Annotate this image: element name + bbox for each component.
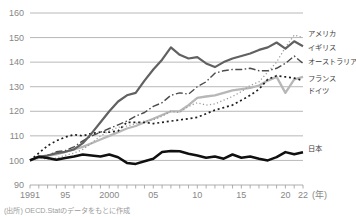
series-label-germany: ドイツ <box>308 86 329 95</box>
x-axis-label-95: 95 <box>60 190 70 200</box>
series-label-uk: イギリス <box>308 43 336 52</box>
series-label-australia: オーストラリア <box>308 57 356 66</box>
y-axis-label-120: 120 <box>9 106 24 116</box>
series-line-japan <box>30 151 303 164</box>
series-label-france: フランス <box>308 74 336 83</box>
x-axis-label-05: 05 <box>148 190 158 200</box>
chart-figure: 9010011012013014015016019919520000510152… <box>0 0 356 217</box>
y-axis-label-160: 160 <box>9 8 24 18</box>
series-line-uk <box>30 41 303 160</box>
y-axis-label-140: 140 <box>9 57 24 67</box>
x-axis-label-20: 20 <box>280 190 290 200</box>
y-axis-label-150: 150 <box>9 33 24 43</box>
line-chart: 9010011012013014015016019919520000510152… <box>0 0 356 217</box>
y-axis-label-110: 110 <box>10 131 24 141</box>
x-axis-unit-label: (年) <box>312 189 327 200</box>
source-note: (出所) OECD.Statのデータをもとに作成 <box>4 206 130 215</box>
x-axis-label-10: 10 <box>192 190 202 200</box>
y-axis-label-90: 90 <box>14 180 24 190</box>
series-line-australia <box>30 56 303 160</box>
x-axis-label-22: 22 <box>298 190 308 200</box>
y-axis-label-100: 100 <box>9 156 24 166</box>
series-label-japan: 日本 <box>308 144 323 153</box>
x-axis-label-1991: 1991 <box>20 190 40 200</box>
x-axis-label-2000: 2000 <box>99 190 119 200</box>
x-axis-label-15: 15 <box>236 190 246 200</box>
series-label-usa: アメリカ <box>308 29 336 38</box>
y-axis-label-130: 130 <box>9 82 24 92</box>
